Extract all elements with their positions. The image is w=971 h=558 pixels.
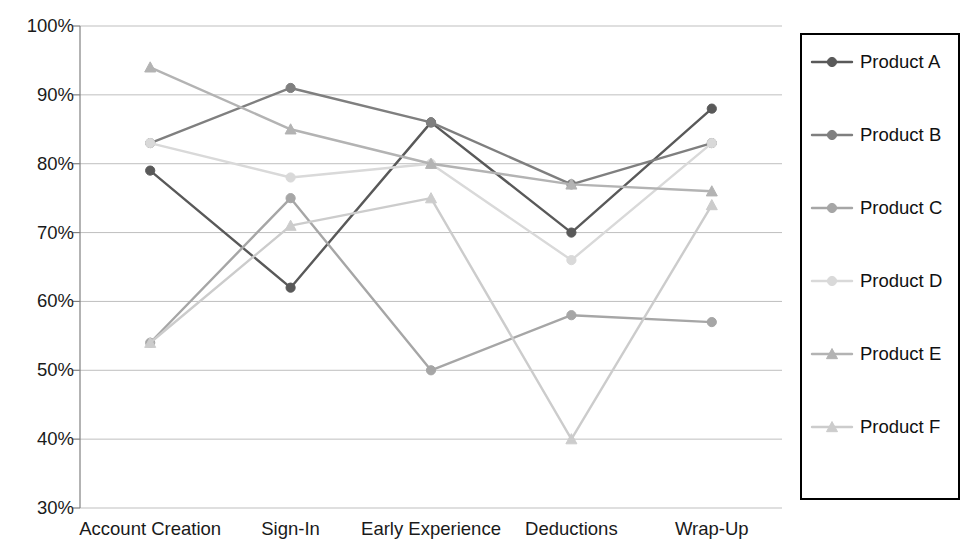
legend: Product AProduct BProduct CProduct DProd… — [800, 33, 960, 500]
legend-label: Product A — [860, 53, 940, 72]
x-tick-label: Wrap-Up — [602, 520, 822, 539]
legend-item-product-e[interactable]: Product E — [802, 341, 958, 367]
line-chart: 100%90%80%70%60%50%40%30% Account Creati… — [0, 0, 971, 558]
legend-label: Product B — [860, 126, 941, 145]
legend-swatch-icon — [810, 270, 854, 292]
legend-label: Product D — [860, 272, 942, 291]
legend-item-product-a[interactable]: Product A — [802, 49, 958, 75]
legend-label: Product E — [860, 345, 941, 364]
legend-item-product-d[interactable]: Product D — [802, 268, 958, 294]
legend-swatch-icon — [810, 124, 854, 146]
legend-swatch-icon — [810, 197, 854, 219]
legend-swatch-icon — [810, 51, 854, 73]
legend-swatch-icon — [810, 416, 854, 438]
legend-label: Product F — [860, 418, 940, 437]
legend-item-product-f[interactable]: Product F — [802, 414, 958, 440]
legend-item-product-c[interactable]: Product C — [802, 195, 958, 221]
legend-item-product-b[interactable]: Product B — [802, 122, 958, 148]
legend-label: Product C — [860, 199, 942, 218]
legend-swatch-icon — [810, 343, 854, 365]
x-axis: Account CreationSign-InEarly ExperienceD… — [0, 0, 790, 558]
